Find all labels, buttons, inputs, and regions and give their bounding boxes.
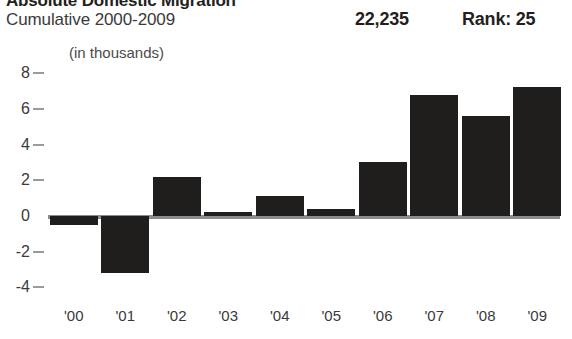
y-axis-tick-label: 2 <box>4 172 30 188</box>
plot-area: 86420-2-4'00'01'02'03'04'05'06'07'08'09 <box>0 0 572 339</box>
x-axis-tick-label: '05 <box>306 308 356 323</box>
bar-04 <box>256 196 304 216</box>
x-axis-tick-label: '09 <box>512 308 562 323</box>
x-axis-tick-label: '02 <box>152 308 202 323</box>
y-axis-tick-label: 6 <box>4 101 30 117</box>
y-axis-tick-label: -4 <box>4 279 30 295</box>
x-axis-tick-label: '06 <box>358 308 408 323</box>
x-axis-tick-label: '08 <box>461 308 511 323</box>
bar-06 <box>359 162 407 216</box>
y-axis-tick-mark <box>33 108 44 110</box>
x-axis-tick-label: '00 <box>49 308 99 323</box>
bar-07 <box>410 95 458 216</box>
bar-02 <box>153 177 201 216</box>
y-axis-tick-mark <box>33 251 44 253</box>
y-axis-tick-label: 8 <box>4 65 30 81</box>
x-axis-tick-label: '01 <box>100 308 150 323</box>
y-axis-tick-mark <box>33 179 44 181</box>
bar-00 <box>50 216 98 225</box>
bar-03 <box>204 212 252 216</box>
x-axis-tick-label: '04 <box>255 308 305 323</box>
bar-08 <box>462 116 510 216</box>
y-axis-tick-label: -2 <box>4 244 30 260</box>
y-axis-tick-label: 4 <box>4 137 30 153</box>
y-axis-tick-mark <box>33 286 44 288</box>
bar-01 <box>101 216 149 273</box>
y-axis-tick-mark <box>33 72 44 74</box>
x-axis-tick-label: '07 <box>409 308 459 323</box>
migration-bar-chart: Absolute Domestic Migration Cumulative 2… <box>0 0 572 339</box>
y-axis-tick-mark <box>33 144 44 146</box>
x-axis-tick-label: '03 <box>203 308 253 323</box>
bar-09 <box>513 87 561 216</box>
y-axis-tick-label: 0 <box>4 208 30 224</box>
bar-05 <box>307 209 355 216</box>
